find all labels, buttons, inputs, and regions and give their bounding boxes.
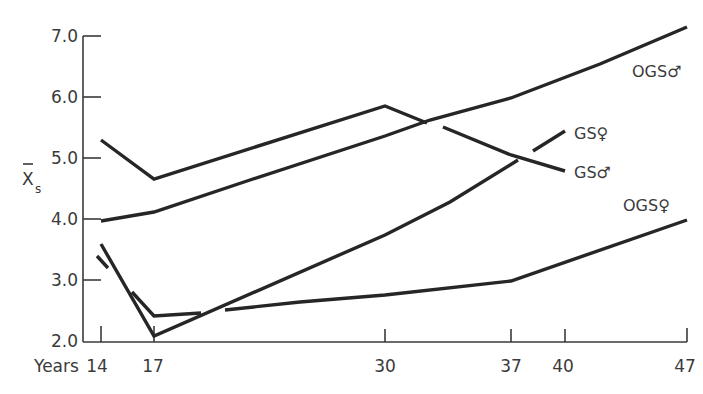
x-tick-label: 37 — [500, 356, 522, 376]
x-tick-label: 47 — [674, 356, 696, 376]
y-tick-label: 2.0 — [51, 331, 78, 351]
x-tick-label: 40 — [552, 356, 574, 376]
x-tick-labels: Years 14 17 30 37 40 47 — [33, 356, 696, 376]
label-gs-female: GS♀ — [574, 124, 608, 143]
y-tick-label: 7.0 — [51, 26, 78, 46]
label-ogs-male: OGS♂ — [632, 62, 682, 81]
y-axis-label: X s — [22, 164, 41, 196]
series-ogs-female — [97, 220, 687, 316]
x-tick-label: 30 — [374, 356, 396, 376]
line-chart: 7.0 6.0 5.0 4.0 3.0 2.0 X s Years 14 17 … — [0, 0, 703, 394]
x-tick-label: 17 — [142, 356, 164, 376]
x-tick-label: 14 — [86, 356, 108, 376]
y-axis — [83, 36, 101, 342]
y-tick-label: 3.0 — [51, 270, 78, 290]
y-tick-labels: 7.0 6.0 5.0 4.0 3.0 2.0 — [51, 26, 78, 351]
label-ogs-female: OGS♀ — [623, 196, 670, 215]
y-tick-label: 5.0 — [51, 148, 78, 168]
x-axis-prefix: Years — [33, 356, 79, 376]
y-tick-label: 6.0 — [51, 87, 78, 107]
y-axis-label-main: X — [22, 169, 34, 189]
y-axis-label-sub: s — [35, 182, 41, 196]
series-gs-male — [101, 106, 565, 179]
label-gs-male: GS♂ — [574, 163, 611, 182]
series-labels: OGS♂ GS♀ GS♂ OGS♀ — [574, 62, 682, 215]
y-tick-label: 4.0 — [51, 209, 78, 229]
series-gs-female — [101, 131, 565, 336]
